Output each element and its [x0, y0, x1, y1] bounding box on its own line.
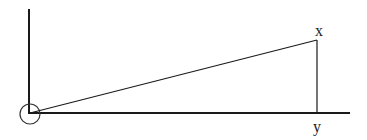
triangle-diagram: x y: [0, 0, 367, 140]
foot-label: y: [313, 118, 321, 136]
hypotenuse-line: [30, 40, 317, 113]
apex-label: x: [315, 22, 323, 39]
